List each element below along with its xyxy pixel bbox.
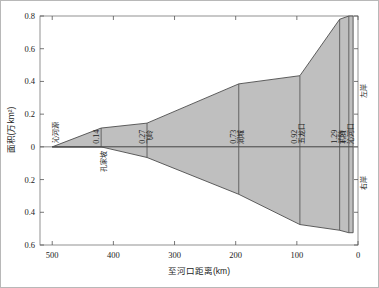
x-tick-label: 200 [229,250,242,260]
station-name-label: 飞岭 [145,130,154,144]
x-tick-label: 500 [46,250,59,260]
left-bank-label: 左岸 [359,84,368,98]
y-tick-label: 0.2 [24,109,35,119]
y-tick-label: 0.6 [24,240,35,250]
station-name-label: 沁河口 [346,123,354,144]
station-name-label: 孔家坡 [99,151,108,172]
x-tick-label: 0 [356,250,360,260]
y-tick-label: 0.6 [24,44,35,54]
y-tick-label: 0.2 [24,175,35,185]
y-tick-label: 0.8 [24,11,35,21]
y-tick-label: 0.4 [24,76,35,86]
y-axis-title: 面积(万km²) [6,106,16,153]
station-value-label: 0.14 [92,130,101,144]
station-name-label: 五龙口 [297,123,306,144]
y-tick-label: 0 [31,142,35,152]
x-tick-label: 100 [290,250,303,260]
drainage-area-chart: 0.80.60.40.200.20.40.6 5004003002001000 … [0,0,379,288]
x-tick-label: 300 [168,250,181,260]
station-name-label: 沁河源 [51,122,60,143]
x-axis-title: 至河口距离(km) [168,266,230,276]
station-name-label: 润城 [236,130,245,144]
x-tick-label: 400 [107,250,120,260]
chart-container: 0.80.60.40.200.20.40.6 5004003002001000 … [0,0,379,288]
right-bank-label: 右岸 [359,176,368,190]
y-tick-label: 0.4 [24,207,35,217]
